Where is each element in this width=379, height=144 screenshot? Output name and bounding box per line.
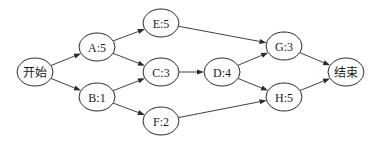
node-label: E:5 <box>153 17 170 31</box>
arrowhead-icon <box>74 86 81 91</box>
node-label: 结束 <box>334 66 358 80</box>
edge-line <box>238 78 262 87</box>
node-label: B:1 <box>88 91 105 105</box>
arrowhead-icon <box>323 78 330 83</box>
node-end: 结束 <box>328 58 364 86</box>
edge-C-D <box>179 69 204 74</box>
arrowhead-icon <box>137 110 144 115</box>
node-label: H:5 <box>275 91 293 105</box>
edge-B-C <box>113 78 145 90</box>
edge-line <box>113 103 138 112</box>
node-F: F:2 <box>143 107 179 135</box>
node-label: C:3 <box>152 66 169 80</box>
node-H: H:5 <box>266 83 302 111</box>
edge-line <box>179 26 260 41</box>
edge-line <box>300 81 324 90</box>
node-B: B:1 <box>79 83 115 111</box>
edge-line <box>300 53 324 63</box>
edge-E-G <box>179 26 267 44</box>
arrowhead-icon <box>261 53 268 58</box>
edge-line <box>178 102 259 118</box>
edge-H-end <box>300 78 330 90</box>
arrowhead-icon <box>261 86 268 91</box>
edge-line <box>238 55 262 65</box>
arrowhead-icon <box>137 29 144 34</box>
arrowhead-icon <box>74 53 81 58</box>
node-E: E:5 <box>143 9 179 37</box>
node-D: D:4 <box>204 58 240 86</box>
edge-F-H <box>178 99 266 117</box>
arrowhead-icon <box>323 60 330 65</box>
node-label: A:5 <box>88 41 106 55</box>
node-G: G:3 <box>266 32 302 60</box>
edge-line <box>113 32 138 41</box>
node-C: C:3 <box>143 58 179 86</box>
edge-A-C <box>113 53 145 65</box>
node-label: D:4 <box>213 66 231 80</box>
edge-line <box>113 81 138 91</box>
edge-D-H <box>238 78 268 90</box>
arrowhead-icon <box>137 78 144 83</box>
edge-start-A <box>51 53 81 65</box>
node-label: 开始 <box>23 66 47 80</box>
edge-line <box>113 53 138 63</box>
node-A: A:5 <box>79 33 115 61</box>
arrowhead-icon <box>259 39 266 44</box>
arrowhead-icon <box>197 69 204 74</box>
edge-line <box>51 78 75 87</box>
node-start: 开始 <box>17 58 53 86</box>
network-diagram: 开始A:5B:1E:5C:3F:2D:4G:3H:5结束 <box>0 0 379 144</box>
arrowhead-icon <box>259 99 266 104</box>
edge-D-G <box>238 53 268 66</box>
arrowhead-icon <box>137 61 144 66</box>
edge-G-end <box>300 53 330 66</box>
node-label: F:2 <box>153 115 169 129</box>
edge-start-B <box>51 78 81 90</box>
node-label: G:3 <box>275 40 293 54</box>
edge-B-F <box>113 103 145 115</box>
edge-A-E <box>113 29 145 41</box>
edge-line <box>51 56 75 65</box>
